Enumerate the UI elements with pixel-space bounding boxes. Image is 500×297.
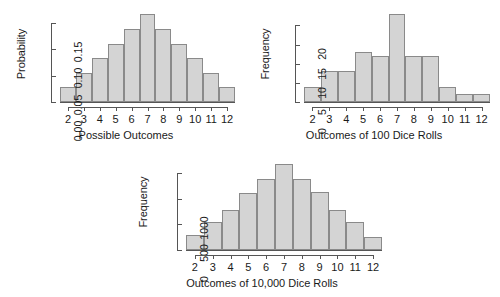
x-tick-label: 12 <box>367 261 379 273</box>
plot-area-1 <box>60 10 235 102</box>
histogram-bar <box>239 193 257 250</box>
x-axis-line <box>60 102 235 103</box>
histogram-bar <box>171 44 187 102</box>
y-tick-mark <box>51 102 56 103</box>
x-tick-label: 2 <box>65 113 71 125</box>
x-tick-label: 10 <box>442 113 454 125</box>
x-axis-line <box>186 250 382 251</box>
histogram-bar <box>346 222 364 250</box>
plot-area-3 <box>186 158 382 250</box>
x-tick-label: 3 <box>210 261 216 273</box>
y-tick-mark <box>177 250 182 251</box>
x-tick-label: 12 <box>475 113 487 125</box>
histogram-bar <box>338 71 355 102</box>
x-tick-label: 12 <box>221 113 233 125</box>
x-tick-label: 9 <box>428 113 434 125</box>
y-tick-label: 0.15 <box>72 37 84 67</box>
x-tick-label: 2 <box>192 261 198 273</box>
histogram-bar <box>275 164 293 250</box>
x-tick-label: 8 <box>160 113 166 125</box>
y-tick-mark <box>177 173 182 174</box>
x-tick-label: 10 <box>189 113 201 125</box>
histogram-bar <box>92 58 108 102</box>
histogram-bar <box>422 56 439 102</box>
y-axis-title: Frequency <box>137 167 149 237</box>
y-tick-mark <box>295 25 300 26</box>
histogram-bar <box>155 29 171 102</box>
x-tick-label: 5 <box>245 261 251 273</box>
x-tick-mark <box>482 107 483 111</box>
histogram-bar <box>405 56 422 102</box>
y-axis-line <box>51 23 52 102</box>
x-tick-label: 11 <box>459 113 470 125</box>
x-tick-axis-line <box>312 107 481 108</box>
x-tick-label: 11 <box>205 113 216 125</box>
histogram-bar <box>187 58 203 102</box>
x-tick-label: 11 <box>350 261 361 273</box>
histogram-bar <box>293 179 311 250</box>
y-tick-mark <box>295 64 300 65</box>
x-tick-label: 8 <box>411 113 417 125</box>
y-tick-mark <box>51 49 56 50</box>
x-tick-label: 6 <box>129 113 135 125</box>
y-axis-line <box>177 173 178 250</box>
histogram-bar <box>108 44 124 102</box>
histogram-bar <box>140 14 156 102</box>
y-tick-mark <box>51 76 56 77</box>
histogram-bar <box>257 179 275 250</box>
x-axis-title: Outcomes of 10,000 Dice Rolls <box>128 277 396 289</box>
x-tick-label: 5 <box>113 113 119 125</box>
y-axis-title: Frequency <box>259 19 271 89</box>
x-tick-label: 7 <box>394 113 400 125</box>
histogram-bar <box>311 192 329 250</box>
y-tick-mark <box>177 224 182 225</box>
y-tick-label: 1000 <box>198 213 210 243</box>
histogram-bar <box>473 94 490 102</box>
x-tick-label: 8 <box>299 261 305 273</box>
histogram-bar <box>372 56 389 102</box>
x-tick-label: 6 <box>377 113 383 125</box>
plot-area-2 <box>304 10 490 102</box>
x-axis-title: Outcomes of 100 Dice Rolls <box>252 129 496 141</box>
x-tick-label: 2 <box>309 113 315 125</box>
x-axis-line <box>304 102 490 103</box>
chart-panel-probability: 0.000.050.100.15Probability2345678910111… <box>8 2 244 148</box>
x-tick-label: 10 <box>331 261 343 273</box>
chart-panel-100-rolls: 05101520Frequency23456789101112Outcomes … <box>252 2 496 148</box>
x-axis-title: Possible Outcomes <box>8 129 244 141</box>
x-tick-mark <box>373 255 374 259</box>
histogram-bar <box>364 237 382 250</box>
x-tick-label: 3 <box>81 113 87 125</box>
x-tick-label: 7 <box>281 261 287 273</box>
x-tick-label: 7 <box>144 113 150 125</box>
y-tick-label: 0.10 <box>72 63 84 93</box>
x-tick-label: 9 <box>176 113 182 125</box>
histogram-bar <box>203 73 219 102</box>
histogram-bar <box>355 52 372 102</box>
x-tick-mark <box>227 107 228 111</box>
x-tick-label: 4 <box>343 113 349 125</box>
x-tick-label: 9 <box>317 261 323 273</box>
histogram-bar <box>329 210 347 250</box>
histogram-bar <box>219 87 235 102</box>
y-tick-mark <box>177 199 182 200</box>
x-tick-label: 4 <box>227 261 233 273</box>
histogram-bar <box>389 14 406 102</box>
y-tick-label: 20 <box>316 39 328 69</box>
histogram-bar <box>222 210 240 250</box>
x-tick-label: 4 <box>97 113 103 125</box>
y-tick-mark <box>295 45 300 46</box>
chart-panel-10000-rolls: 05001000Frequency23456789101112Outcomes … <box>128 150 396 296</box>
y-tick-mark <box>295 102 300 103</box>
y-axis-title: Probability <box>15 19 27 89</box>
y-tick-mark <box>295 83 300 84</box>
x-tick-axis-line <box>68 107 227 108</box>
x-tick-label: 3 <box>326 113 332 125</box>
histogram-bar <box>456 94 473 102</box>
y-tick-mark <box>51 23 56 24</box>
x-tick-axis-line <box>195 255 373 256</box>
histogram-bar <box>124 29 140 102</box>
x-tick-label: 6 <box>263 261 269 273</box>
x-tick-label: 5 <box>360 113 366 125</box>
histogram-bar <box>439 87 456 102</box>
